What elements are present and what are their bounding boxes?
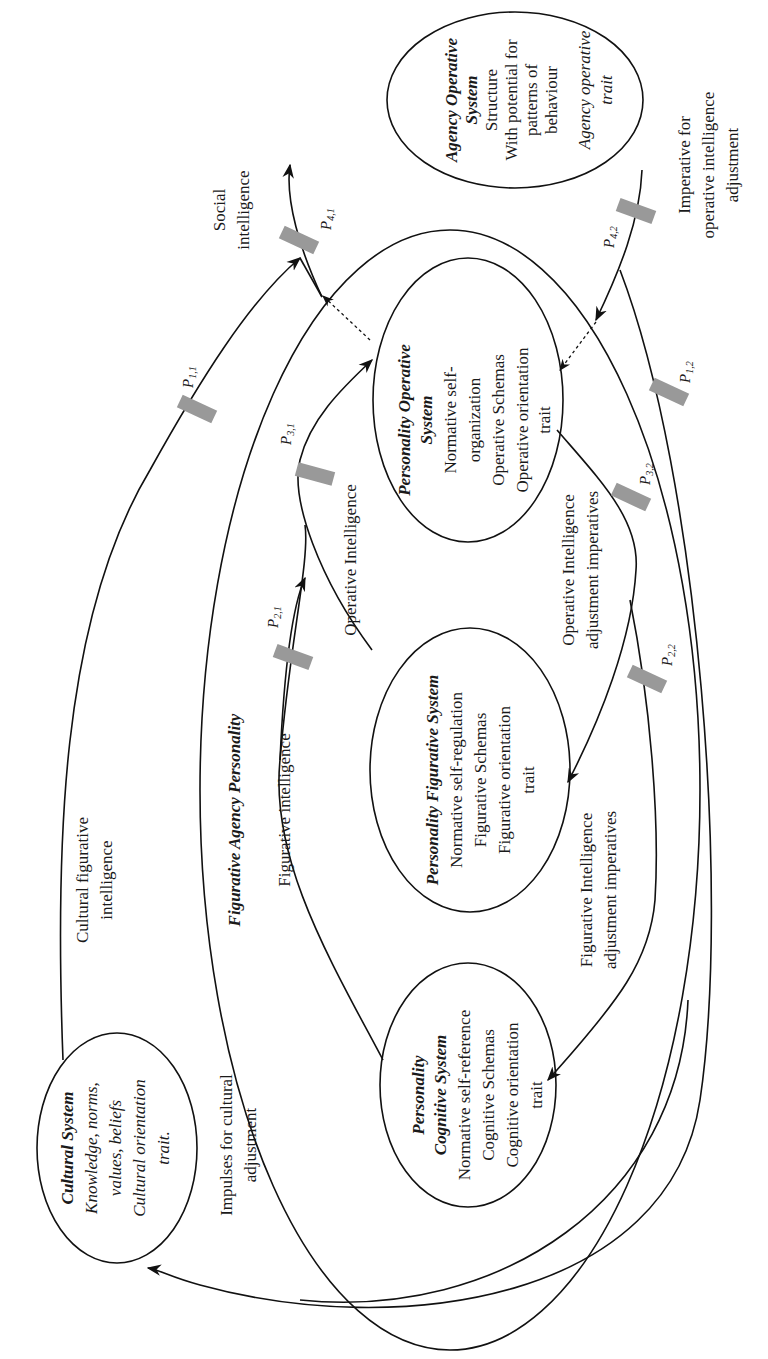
personality-figurative-system-ellipse xyxy=(370,628,570,912)
svg-text:patterns of: patterns of xyxy=(522,64,541,137)
gate-label-p41: P4,1 xyxy=(318,208,336,231)
agency-operative-trait-text: Agency operative trait xyxy=(575,30,616,150)
gate-label-p21: P2,1 xyxy=(265,606,283,629)
dotted-link-imperative-to-operative xyxy=(560,322,596,370)
svg-text:Structure: Structure xyxy=(482,69,501,131)
svg-text:adjustment imperatives: adjustment imperatives xyxy=(601,811,620,969)
figurative-agency-personality-title: Figurative Agency Personality xyxy=(225,713,244,927)
svg-text:trait: trait xyxy=(527,1081,546,1109)
svg-text:Normative self-reference: Normative self-reference xyxy=(455,1010,474,1180)
gate-label-p22: P2,2 xyxy=(659,644,677,667)
svg-text:intelligence: intelligence xyxy=(234,170,253,249)
svg-text:trait: trait xyxy=(519,766,538,794)
gate-p31 xyxy=(295,462,335,485)
agency-operative-system-text: Agency Operative System Structure With p… xyxy=(442,37,561,163)
svg-text:values, beliefs: values, beliefs xyxy=(106,1099,125,1196)
gate-p42 xyxy=(616,198,656,224)
label-figurative-adjustment: Figurative Intelligence adjustment imper… xyxy=(577,811,620,969)
svg-text:trait: trait xyxy=(597,74,616,105)
edge-cultural-figurative-intelligence xyxy=(60,258,300,1060)
svg-text:System: System xyxy=(462,75,481,124)
personality-cognitive-system-text: Personality Cognitive System Normative s… xyxy=(409,1010,546,1180)
edge-figurative-intelligence xyxy=(279,525,383,1060)
gate-p41 xyxy=(279,226,319,255)
label-operative-intelligence: Operative Intelligence xyxy=(341,484,360,636)
gate-label-p11: P1,1 xyxy=(180,366,198,389)
label-operative-adjustment: Operative Intelligence adjustment impera… xyxy=(559,491,602,649)
svg-text:Cultural System: Cultural System xyxy=(58,1092,77,1205)
gate-label-p32: P3,2 xyxy=(637,463,655,486)
svg-text:trait.: trait. xyxy=(154,1131,173,1165)
svg-text:Personality Operative: Personality Operative xyxy=(395,344,414,497)
label-impulses-cultural: Impulses for cultural adjustment xyxy=(217,1074,260,1216)
svg-text:operative intelligence: operative intelligence xyxy=(699,92,718,239)
svg-text:With potential for: With potential for xyxy=(502,39,521,160)
gate-p32 xyxy=(611,483,651,512)
personality-figurative-system-text: Personality Figurative System Normative … xyxy=(423,675,538,887)
gate-p11 xyxy=(177,395,217,424)
edge-figurative-to-operative-arrow xyxy=(280,578,305,760)
label-cultural-figurative: Cultural figurative intelligence xyxy=(73,817,116,943)
svg-text:Impulses for cultural: Impulses for cultural xyxy=(217,1074,236,1216)
edge-social-link xyxy=(300,258,322,297)
svg-text:Personality Figurative System: Personality Figurative System xyxy=(423,675,442,887)
svg-text:intelligence: intelligence xyxy=(97,840,116,919)
gate-label-p31: P3,1 xyxy=(278,423,296,446)
svg-text:organization: organization xyxy=(465,377,484,462)
diagram-canvas: P1,1 P4,1 P4,2 P1,2 P3,1 P3,2 P2,1 P2,2 … xyxy=(0,0,768,1359)
svg-text:Figurative Schemas: Figurative Schemas xyxy=(471,713,490,848)
svg-text:Cognitive Schemas: Cognitive Schemas xyxy=(479,1029,498,1161)
label-imperative-operative: Imperative for operative intelligence ad… xyxy=(675,92,742,239)
svg-text:adjustment: adjustment xyxy=(723,127,742,202)
svg-text:Figurative Intelligence: Figurative Intelligence xyxy=(577,813,596,967)
svg-text:adjustment: adjustment xyxy=(241,1107,260,1182)
svg-text:Personality: Personality xyxy=(409,1055,428,1136)
svg-text:Cognitive orientation: Cognitive orientation xyxy=(503,1022,522,1167)
svg-text:Operative Schemas: Operative Schemas xyxy=(489,354,508,486)
svg-text:Social: Social xyxy=(210,188,229,231)
svg-text:System: System xyxy=(417,395,436,444)
edge-operative-intelligence xyxy=(298,360,372,650)
gate-label-p42: P4,2 xyxy=(601,226,619,249)
personality-operative-system-text: Personality Operative System Normative s… xyxy=(395,344,554,497)
svg-text:Agency operative: Agency operative xyxy=(575,30,594,150)
dotted-link-operative-to-social xyxy=(323,296,370,340)
gate-label-p12: P1,2 xyxy=(677,361,695,384)
svg-text:trait: trait xyxy=(535,406,554,434)
svg-text:adjustment imperatives: adjustment imperatives xyxy=(583,491,602,649)
gate-p22 xyxy=(627,665,667,694)
label-social-intelligence: Social intelligence xyxy=(210,170,253,249)
svg-text:Imperative for: Imperative for xyxy=(675,116,694,214)
svg-text:Cultural figurative: Cultural figurative xyxy=(73,817,92,943)
svg-text:Normative self-regulation: Normative self-regulation xyxy=(447,691,466,868)
svg-text:Figurative orientation: Figurative orientation xyxy=(495,706,514,854)
svg-text:Operative orientation: Operative orientation xyxy=(513,347,532,492)
svg-text:Normative self-: Normative self- xyxy=(441,366,460,473)
svg-text:Agency Operative: Agency Operative xyxy=(442,37,461,163)
label-figurative-intelligence: Figurative intelligence xyxy=(275,733,294,886)
cultural-system-text: Cultural System Knowledge, norms, values… xyxy=(58,1079,173,1216)
svg-text:Cognitive System: Cognitive System xyxy=(431,1035,450,1155)
svg-text:Cultural orientation: Cultural orientation xyxy=(130,1079,149,1216)
svg-text:Knowledge, norms,: Knowledge, norms, xyxy=(82,1082,101,1215)
svg-text:behaviour: behaviour xyxy=(542,66,561,134)
svg-text:Operative Intelligence: Operative Intelligence xyxy=(559,494,578,646)
